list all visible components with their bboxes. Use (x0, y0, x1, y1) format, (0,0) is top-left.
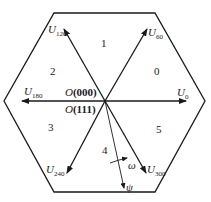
sector-4-label: 4 (102, 145, 108, 156)
psi-label: ψ (126, 182, 133, 193)
origin-label-000: O(000) (65, 87, 97, 98)
label-u0: U0 (177, 87, 188, 101)
sector-3-label: 3 (48, 122, 54, 133)
omega-label: ω (128, 160, 136, 171)
label-u60: U60 (148, 27, 163, 41)
vector-u60-arrow (105, 29, 147, 101)
label-u240: U240 (46, 164, 64, 178)
sector-2-label: 2 (50, 66, 56, 77)
hexagon-diagram (0, 0, 211, 202)
sector-0-label: 0 (154, 66, 160, 77)
label-u180: U180 (24, 86, 42, 100)
label-u300: U300 (147, 164, 165, 178)
sector-1-label: 1 (101, 38, 107, 49)
sector-5-label: 5 (156, 124, 162, 135)
origin-label-111: O(111) (65, 104, 96, 115)
label-u120: U120 (48, 24, 66, 38)
